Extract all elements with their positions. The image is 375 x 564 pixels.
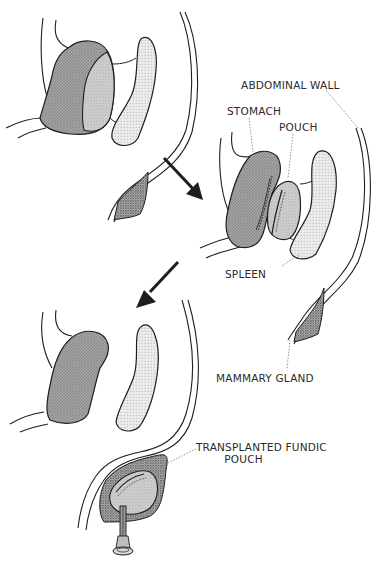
leader-pouch: [288, 134, 293, 178]
duodenum-1: [6, 118, 46, 138]
spleen-1: [112, 37, 157, 145]
arrow-1-to-panel-2: [164, 158, 203, 200]
panel-1-original: [6, 12, 198, 222]
arrow-2-to-panel-3: [136, 262, 178, 308]
panel-3-pouch-transplanted: [10, 300, 198, 555]
spleen-3: [116, 325, 158, 431]
label-spleen: SPLEEN: [225, 268, 266, 280]
label-mammary-gland: MAMMARY GLAND: [216, 372, 314, 384]
panel-2-pouch-separated: [200, 128, 370, 344]
label-abdominal-wall: ABDOMINAL WALL: [241, 79, 340, 91]
mammary-gland-2: [294, 288, 324, 342]
stomach-3: [47, 331, 108, 423]
leader-abdominal-wall: [326, 90, 358, 128]
label-stomach: STOMACH: [227, 105, 281, 117]
label-pouch: POUCH: [279, 121, 318, 133]
label-transplanted-fundic-pouch: TRANSPLANTED FUNDIC POUCH: [196, 441, 327, 465]
leader-stomach: [249, 118, 253, 152]
leader-mammary-gland: [287, 340, 290, 368]
leader-spleen: [282, 254, 300, 266]
mammary-gland-1: [114, 172, 148, 220]
duodenum-3: [10, 412, 48, 432]
